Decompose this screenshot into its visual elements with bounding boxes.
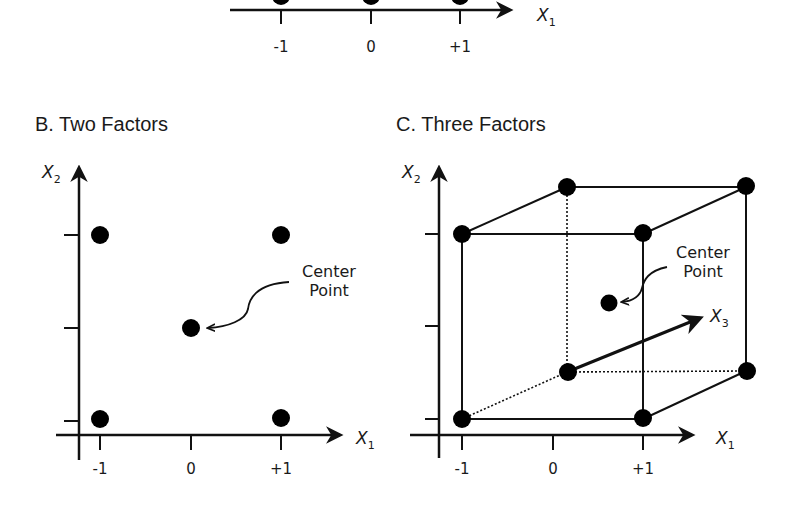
design-point bbox=[559, 363, 577, 381]
panel-c-title: C. Three Factors bbox=[396, 113, 546, 135]
x2-axis-label: X2 bbox=[401, 162, 421, 186]
tick-label: -1 bbox=[93, 460, 108, 478]
center-point-label: Point bbox=[683, 262, 723, 281]
panel-a-one-factor: -1 0 +1 X1 bbox=[230, 0, 556, 56]
x1-axis-label: X1 bbox=[715, 428, 735, 452]
design-point bbox=[362, 0, 380, 5]
x3-axis bbox=[567, 318, 700, 372]
design-point bbox=[634, 224, 652, 242]
curved-arrow-icon bbox=[208, 282, 289, 328]
design-point bbox=[738, 362, 756, 380]
center-point-label: Center bbox=[676, 243, 730, 262]
center-point bbox=[182, 319, 200, 337]
design-point bbox=[91, 410, 109, 428]
x1-axis-label: X1 bbox=[536, 5, 556, 29]
panel-b-two-factors: B. Two Factors X2 -1 0 +1 X1 Center Poin… bbox=[35, 113, 375, 478]
tick-label: -1 bbox=[455, 460, 470, 478]
design-point bbox=[453, 410, 471, 428]
panel-b-title: B. Two Factors bbox=[35, 113, 168, 135]
tick-label: +1 bbox=[270, 460, 292, 478]
design-point bbox=[272, 409, 290, 427]
panel-c-three-factors: C. Three Factors X2 -1 0 +1 X1 X3 bbox=[396, 113, 756, 478]
center-point bbox=[601, 295, 618, 312]
cube-edge bbox=[643, 187, 746, 234]
cube-edge bbox=[643, 371, 746, 419]
tick-label: 0 bbox=[548, 460, 558, 478]
tick-label: 0 bbox=[186, 460, 196, 478]
design-point bbox=[558, 178, 576, 196]
design-point bbox=[453, 225, 471, 243]
factorial-design-diagram: -1 0 +1 X1 B. Two Factors X2 -1 0 +1 X1 … bbox=[0, 0, 794, 513]
design-point bbox=[272, 0, 290, 5]
tick-label: 0 bbox=[366, 38, 376, 56]
design-point bbox=[737, 177, 755, 195]
tick-label: +1 bbox=[632, 460, 654, 478]
center-point-label: Center bbox=[302, 262, 356, 281]
design-point bbox=[272, 226, 290, 244]
cube-edge-hidden bbox=[462, 372, 567, 419]
x1-axis-label: X1 bbox=[355, 428, 375, 452]
curved-arrow-icon bbox=[622, 267, 667, 302]
center-point-label: Point bbox=[309, 281, 349, 300]
design-point bbox=[91, 226, 109, 244]
cube-edge bbox=[462, 187, 567, 234]
x2-axis-label: X2 bbox=[41, 162, 61, 186]
cube-edge-hidden bbox=[567, 371, 746, 372]
x3-axis-label: X3 bbox=[709, 306, 729, 330]
design-point bbox=[451, 0, 469, 5]
design-point bbox=[634, 409, 652, 427]
tick-label: +1 bbox=[449, 38, 471, 56]
tick-label: -1 bbox=[274, 38, 289, 56]
